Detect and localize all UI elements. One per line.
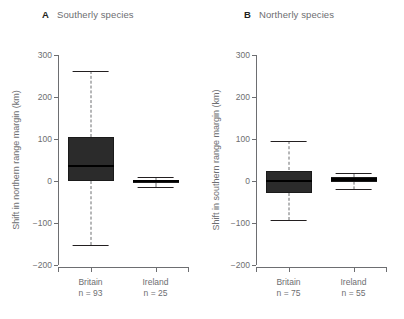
whisker-upper — [288, 141, 289, 170]
x-group-name: Ireland — [341, 277, 367, 287]
x-group-tick — [156, 267, 157, 272]
y-tick — [252, 265, 256, 266]
x-group-name: Ireland — [143, 277, 169, 287]
y-tick — [54, 55, 58, 56]
boxplot-britain — [266, 55, 312, 265]
boxplot-ireland — [331, 55, 377, 265]
whisker-cap-lower — [72, 245, 109, 246]
whisker-cap-lower — [335, 189, 372, 190]
whisker-cap-lower — [270, 220, 307, 221]
y-tick — [54, 223, 58, 224]
whisker-lower — [90, 181, 91, 245]
y-tick-label: 200 — [236, 92, 250, 102]
y-tick-label: −200 — [231, 260, 250, 270]
panel-a-letter: A — [42, 9, 49, 20]
boxplot-ireland — [133, 55, 179, 265]
panel-b-title: Northerly species — [259, 9, 334, 20]
y-tick-label: −100 — [231, 218, 250, 228]
y-axis-label-b: Shift in southern range margin (km) — [211, 89, 221, 230]
x-group-tick — [289, 267, 290, 272]
x-group-count: n = 93 — [78, 288, 102, 299]
median-line — [133, 180, 179, 182]
x-group-count: n = 55 — [341, 288, 367, 299]
x-group-label: Irelandn = 55 — [341, 277, 367, 299]
x-group-label: Britainn = 75 — [276, 277, 300, 299]
x-group-tick — [91, 267, 92, 272]
x-axis-end-tick — [188, 267, 189, 272]
x-axis-end-tick — [256, 267, 257, 272]
whisker-lower — [353, 182, 354, 189]
y-axis-b — [256, 55, 257, 265]
y-tick — [252, 181, 256, 182]
y-tick — [54, 265, 58, 266]
y-tick-label: 0 — [47, 176, 52, 186]
median-line — [68, 165, 114, 167]
x-axis-a — [58, 267, 188, 268]
whisker-cap-upper — [137, 177, 174, 178]
y-tick — [252, 55, 256, 56]
y-tick — [252, 223, 256, 224]
whisker-upper — [90, 71, 91, 137]
y-tick-label: 100 — [236, 134, 250, 144]
y-axis-label-a: Shift in northern range margin (km) — [11, 90, 21, 230]
y-tick-label: −100 — [33, 218, 52, 228]
x-axis-end-tick — [386, 267, 387, 272]
panel-b: B Northerly species Shift in southern ra… — [202, 0, 404, 319]
y-tick — [54, 97, 58, 98]
x-group-name: Britain — [78, 277, 102, 287]
x-group-count: n = 25 — [143, 288, 169, 299]
box-iqr — [68, 137, 114, 181]
x-group-label: Irelandn = 25 — [143, 277, 169, 299]
panel-a-title: Southerly species — [57, 9, 134, 20]
y-tick-label: 0 — [245, 176, 250, 186]
panel-a: A Southerly species Shift in northern ra… — [0, 0, 202, 319]
y-axis-a — [58, 55, 59, 265]
y-tick — [252, 97, 256, 98]
whisker-cap-upper — [335, 173, 372, 174]
y-tick-label: −200 — [33, 260, 52, 270]
median-line — [266, 180, 312, 182]
y-tick-label: 100 — [38, 134, 52, 144]
plot-area-a: Shift in northern range margin (km) 3002… — [58, 55, 188, 265]
y-tick-label: 200 — [38, 92, 52, 102]
x-group-name: Britain — [276, 277, 300, 287]
panel-b-letter: B — [244, 9, 251, 20]
y-tick-label: 300 — [236, 50, 250, 60]
whisker-lower — [288, 193, 289, 220]
whisker-cap-upper — [270, 141, 307, 142]
x-group-tick — [354, 267, 355, 272]
y-tick-label: 300 — [38, 50, 52, 60]
x-group-count: n = 75 — [276, 288, 300, 299]
y-tick — [54, 181, 58, 182]
y-tick — [54, 139, 58, 140]
plot-area-b: Shift in southern range margin (km) 3002… — [256, 55, 386, 265]
boxplot-britain — [68, 55, 114, 265]
whisker-cap-upper — [72, 71, 109, 72]
x-axis-b — [256, 267, 386, 268]
x-axis-end-tick — [58, 267, 59, 272]
x-group-label: Britainn = 93 — [78, 277, 102, 299]
y-tick — [252, 139, 256, 140]
median-line — [331, 178, 377, 180]
whisker-cap-lower — [137, 187, 174, 188]
figure: A Southerly species Shift in northern ra… — [0, 0, 404, 319]
